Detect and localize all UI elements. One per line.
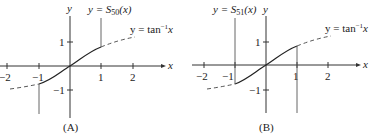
y-tick-label: 1 <box>255 36 261 48</box>
x-tick-label: −2 <box>0 71 11 83</box>
arctan-curve-right <box>101 37 135 47</box>
x-tick-label: −2 <box>196 70 208 82</box>
arctan-label: y = tan−1x <box>130 23 173 35</box>
y-axis-label: y <box>66 2 72 14</box>
x-axis-label: x <box>362 58 368 70</box>
panel-b: x y −2 −1 1 2 1 −1 y = S51(x) y = tan−1x… <box>192 3 368 134</box>
x-tick-label: 2 <box>325 70 331 82</box>
y-tick-label: −1 <box>53 84 65 96</box>
y-tick-label: 1 <box>59 36 65 48</box>
x-tick-label: 2 <box>130 71 136 83</box>
x-tick-label: 1 <box>98 71 104 83</box>
panel-label: (B) <box>259 121 274 134</box>
x-tick-label: −1 <box>32 71 44 83</box>
x-axis-arrow-icon <box>356 63 361 67</box>
x-axis-arrow-icon <box>161 64 166 68</box>
panel-label: (A) <box>63 121 79 134</box>
panel-a: x y −2 −1 1 2 1 −1 y = S50(x) y = tan−1x <box>0 2 173 134</box>
partial-sum-label: y = S51(x) <box>212 3 257 17</box>
x-tick-label: −1 <box>222 70 234 82</box>
y-tick-label: −1 <box>249 84 261 96</box>
x-axis-label: x <box>167 59 173 71</box>
y-axis-label: y <box>262 3 268 15</box>
arctan-curve-right <box>297 36 331 46</box>
arctan-curve-left <box>10 84 39 89</box>
x-tick-label: 1 <box>293 70 299 82</box>
arctan-label: y = tan−1x <box>325 22 368 34</box>
arctan-curve-left <box>207 84 235 89</box>
figure: x y −2 −1 1 2 1 −1 y = S50(x) y = tan−1x <box>0 0 371 136</box>
partial-sum-label: y = S50(x) <box>87 3 132 17</box>
